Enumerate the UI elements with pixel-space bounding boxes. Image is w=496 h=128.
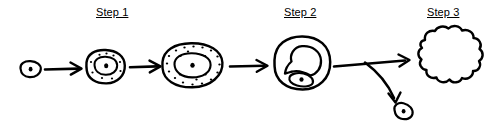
diagram-canvas (0, 0, 496, 128)
step-label-2: Step 2 (284, 6, 316, 19)
cell-2-enlarged-cell (86, 50, 124, 83)
arrow-cell4-to-cloud (334, 55, 410, 67)
cell-1-small-cell (20, 61, 40, 77)
cell-5-released-cell (394, 103, 412, 119)
cloud-blob-mass (418, 26, 482, 82)
arrow-cell2-to-cell3 (130, 61, 161, 73)
arrow-2-shaft (130, 66, 157, 67)
cell-4-dividing-cell (275, 36, 331, 89)
cell-development-diagram: Step 1 Step 2 Step 3 (0, 0, 496, 128)
cell-3-nucleolus (190, 63, 194, 68)
arrow-3-shaft (230, 66, 264, 67)
cell-5-nucleus-dot (402, 109, 406, 113)
step-label-1: Step 1 (96, 6, 128, 19)
step-label-3: Step 3 (427, 6, 459, 19)
arrow-branch-to-small-cell (365, 63, 401, 103)
cell-4-small-body-dot (299, 77, 303, 82)
cloud-blob-outline (418, 26, 482, 82)
arrow-1-shaft (45, 69, 79, 70)
cell-1-nucleus-dot (29, 67, 33, 72)
cell-4-arc-structure (285, 46, 321, 75)
cell-2-nucleolus (104, 63, 108, 68)
cell-3-large-granular-cell (162, 43, 222, 87)
arrow-cell3-to-cell4 (230, 60, 268, 72)
arrow-5-shaft (365, 63, 394, 99)
arrow-cell1-to-cell2 (45, 63, 82, 75)
